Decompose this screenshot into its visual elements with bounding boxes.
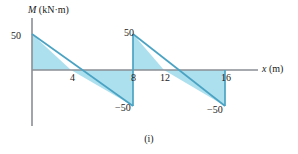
value-label-first-trough: −50 bbox=[115, 103, 131, 113]
negative-area-segment-1 bbox=[71, 70, 133, 106]
value-label-second-trough: −50 bbox=[207, 105, 223, 115]
x-tick-label-16: 16 bbox=[221, 73, 231, 83]
x-axis-unit: (m) bbox=[266, 63, 283, 74]
y-axis-unit: (kN·m) bbox=[36, 4, 69, 15]
value-label-left-peak: 50 bbox=[11, 31, 21, 41]
moment-diagram-svg bbox=[0, 0, 298, 154]
positive-area-segment-2 bbox=[133, 34, 164, 70]
figure-caption: (i) bbox=[0, 133, 298, 144]
bending-moment-diagram-figure: M (kN·m) x (m) 50 50 −50 −50 4 8 12 16 (… bbox=[0, 0, 298, 154]
x-axis-title: x (m) bbox=[262, 64, 283, 74]
x-tick-label-8: 8 bbox=[131, 73, 136, 83]
negative-area-segment-2 bbox=[164, 70, 225, 106]
value-label-mid-peak: 50 bbox=[124, 28, 134, 38]
positive-area-segment-1 bbox=[32, 34, 71, 70]
y-axis-title: M (kN·m) bbox=[28, 5, 69, 15]
x-tick-label-4: 4 bbox=[70, 73, 75, 83]
x-tick-label-12: 12 bbox=[160, 73, 170, 83]
